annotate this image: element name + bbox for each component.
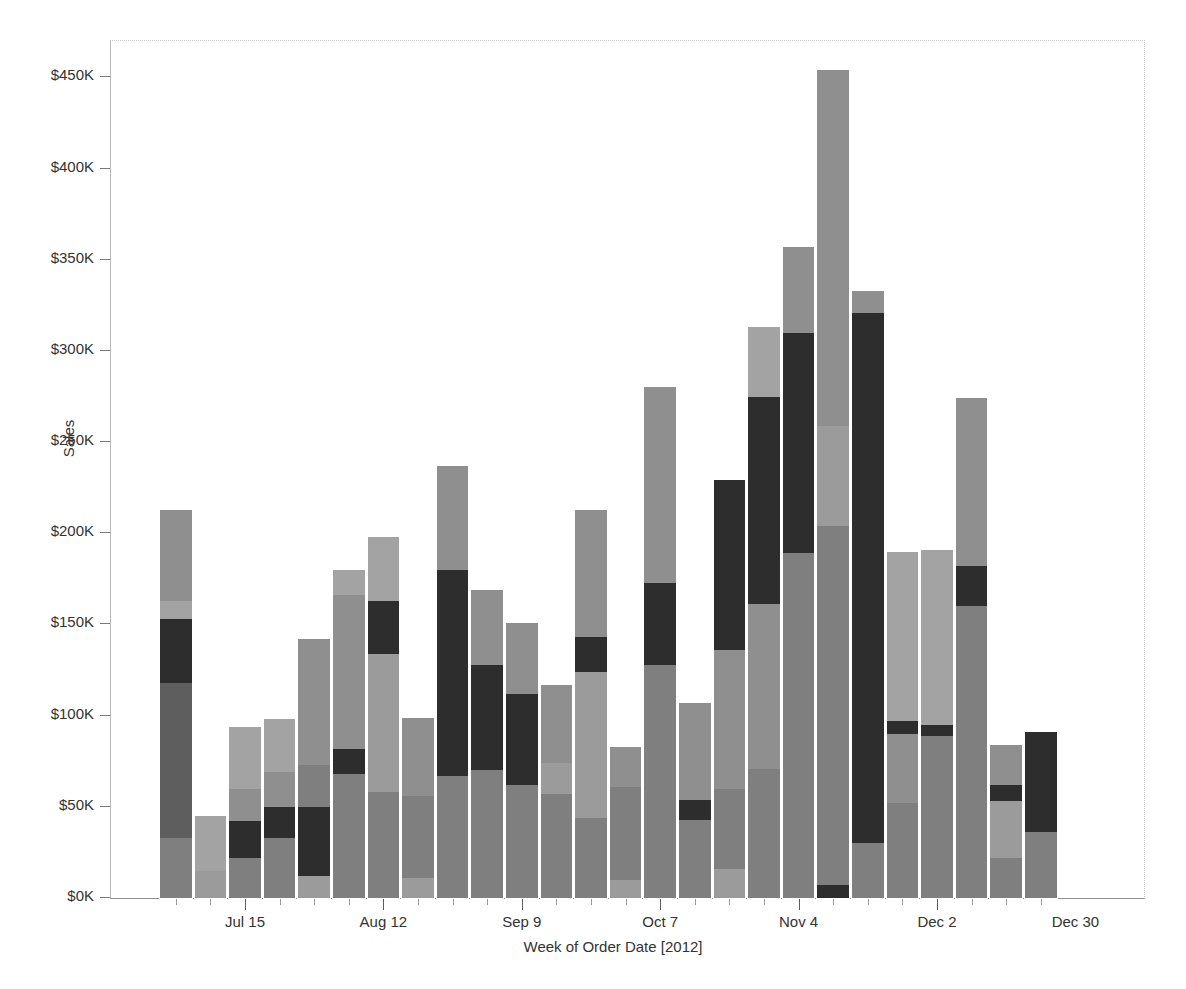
bar-segment[interactable] (921, 725, 953, 736)
bar-segment[interactable] (679, 820, 711, 898)
bar-segment[interactable] (264, 807, 296, 838)
bar-segment[interactable] (990, 745, 1022, 785)
bar[interactable] (160, 510, 192, 898)
bar-segment[interactable] (333, 595, 365, 748)
bar-segment[interactable] (471, 665, 503, 771)
bar[interactable] (195, 816, 227, 898)
bar-segment[interactable] (817, 885, 849, 898)
bar-segment[interactable] (368, 654, 400, 793)
bar-segment[interactable] (333, 749, 365, 775)
bar-segment[interactable] (506, 623, 538, 694)
bar-segment[interactable] (368, 601, 400, 654)
bar-segment[interactable] (264, 772, 296, 807)
bar-segment[interactable] (887, 721, 919, 734)
bar-segment[interactable] (541, 685, 573, 763)
bar-segment[interactable] (333, 774, 365, 898)
bar-segment[interactable] (679, 800, 711, 820)
bar-segment[interactable] (368, 537, 400, 601)
bar-segment[interactable] (817, 70, 849, 426)
bar[interactable] (887, 552, 919, 898)
bar[interactable] (368, 537, 400, 898)
bar[interactable] (748, 327, 780, 898)
bar-segment[interactable] (644, 387, 676, 582)
bar-segment[interactable] (333, 570, 365, 596)
bar-segment[interactable] (229, 821, 261, 857)
bar-segment[interactable] (956, 398, 988, 566)
bar-segment[interactable] (887, 803, 919, 898)
bar-segment[interactable] (990, 801, 1022, 858)
bar[interactable] (264, 719, 296, 898)
bar-segment[interactable] (402, 718, 434, 796)
bar[interactable] (817, 70, 849, 898)
bar[interactable] (402, 717, 434, 898)
bar-segment[interactable] (160, 619, 192, 683)
bar-segment[interactable] (575, 637, 607, 672)
bar[interactable] (921, 550, 953, 898)
bar-segment[interactable] (506, 694, 538, 785)
bar-segment[interactable] (817, 426, 849, 526)
bar-segment[interactable] (644, 665, 676, 898)
bar-segment[interactable] (160, 510, 192, 601)
bar[interactable] (610, 747, 642, 898)
bar-segment[interactable] (956, 606, 988, 898)
bar[interactable] (229, 727, 261, 898)
bar-segment[interactable] (990, 785, 1022, 801)
bar-segment[interactable] (887, 734, 919, 803)
bar-segment[interactable] (541, 794, 573, 898)
bar-segment[interactable] (471, 770, 503, 898)
bar-segment[interactable] (541, 763, 573, 794)
bar-segment[interactable] (748, 327, 780, 396)
bar-segment[interactable] (575, 672, 607, 818)
bar[interactable] (575, 510, 607, 898)
bar-segment[interactable] (402, 796, 434, 878)
bar-segment[interactable] (610, 880, 642, 898)
bar-segment[interactable] (575, 510, 607, 638)
bar-segment[interactable] (748, 397, 780, 605)
bar[interactable] (644, 387, 676, 898)
bar-segment[interactable] (610, 787, 642, 880)
bar-segment[interactable] (783, 247, 815, 333)
bar-segment[interactable] (437, 570, 469, 776)
bar-segment[interactable] (264, 719, 296, 772)
bar[interactable] (679, 703, 711, 898)
bar[interactable] (783, 247, 815, 898)
bar-segment[interactable] (714, 480, 746, 650)
bar[interactable] (1025, 732, 1057, 898)
bar-segment[interactable] (298, 876, 330, 898)
bar[interactable] (541, 685, 573, 898)
bar-segment[interactable] (679, 703, 711, 800)
bar-segment[interactable] (160, 838, 192, 898)
bar-segment[interactable] (852, 313, 884, 844)
bar-segment[interactable] (368, 792, 400, 898)
bar-segment[interactable] (783, 333, 815, 554)
bar-segment[interactable] (887, 552, 919, 722)
bar-segment[interactable] (714, 650, 746, 789)
bar-segment[interactable] (229, 727, 261, 789)
bar-segment[interactable] (229, 789, 261, 822)
bar-segment[interactable] (195, 816, 227, 871)
bar-segment[interactable] (298, 639, 330, 765)
bar[interactable] (298, 639, 330, 898)
bar[interactable] (471, 590, 503, 898)
bar-segment[interactable] (506, 785, 538, 898)
bar-segment[interactable] (1025, 732, 1057, 832)
bar-segment[interactable] (610, 747, 642, 787)
bar-segment[interactable] (298, 807, 330, 876)
bar-segment[interactable] (956, 566, 988, 606)
bar[interactable] (714, 480, 746, 898)
bar-segment[interactable] (264, 838, 296, 898)
bar-segment[interactable] (195, 871, 227, 898)
bar-segment[interactable] (160, 683, 192, 838)
bar-segment[interactable] (990, 858, 1022, 898)
bar-segment[interactable] (471, 590, 503, 665)
bar-segment[interactable] (852, 843, 884, 898)
bar-segment[interactable] (921, 736, 953, 898)
bar-segment[interactable] (748, 604, 780, 768)
bar[interactable] (852, 291, 884, 898)
bar-segment[interactable] (1025, 832, 1057, 898)
bar-segment[interactable] (714, 869, 746, 898)
bar-segment[interactable] (437, 776, 469, 898)
bar-segment[interactable] (298, 765, 330, 807)
bar-segment[interactable] (160, 601, 192, 619)
bar-segment[interactable] (748, 769, 780, 898)
